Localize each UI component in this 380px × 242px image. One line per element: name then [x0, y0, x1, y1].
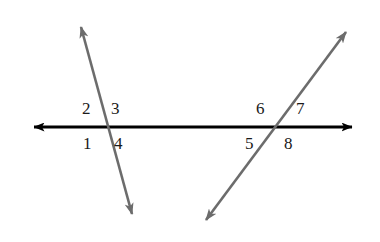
angle-label-8: 8 [284, 135, 293, 152]
angle-label-2: 2 [82, 100, 91, 117]
angle-label-6: 6 [256, 100, 265, 117]
angle-label-7: 7 [296, 100, 305, 117]
left-transversal-line [81, 27, 132, 214]
angle-label-5: 5 [245, 135, 254, 152]
geometry-figure [0, 0, 380, 242]
angle-label-4: 4 [114, 135, 123, 152]
angle-label-3: 3 [111, 100, 120, 117]
diagram-canvas: 2 3 1 4 6 7 5 8 [0, 0, 380, 242]
angle-label-1: 1 [83, 135, 92, 152]
